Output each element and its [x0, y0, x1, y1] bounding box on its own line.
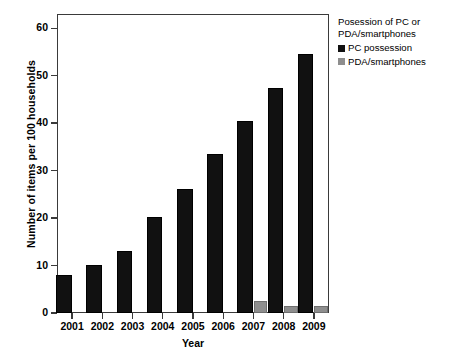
bar-pc-possession — [207, 154, 223, 313]
x-tick-mark — [313, 313, 314, 319]
y-tick-label: 40 — [16, 116, 48, 128]
bars-layer — [57, 14, 329, 313]
bar-pc-possession — [268, 88, 284, 313]
x-tick-mark — [71, 313, 72, 319]
legend-item: PDA/smartphones — [338, 56, 456, 68]
y-tick-label: 20 — [16, 211, 48, 223]
bar-pc-possession — [117, 251, 133, 313]
bar-pda-smartphones — [284, 306, 298, 313]
x-tick-mark — [192, 313, 193, 319]
x-tick-mark — [162, 313, 163, 319]
bar-pda-smartphones — [314, 306, 328, 313]
x-tick-mark — [132, 313, 133, 319]
legend: Posession of PC or PDA/smartphones PC po… — [338, 16, 456, 68]
bar-pda-smartphones — [254, 301, 268, 313]
bar-pc-possession — [177, 189, 193, 313]
legend-title: Posession of PC or PDA/smartphones — [338, 16, 456, 39]
legend-swatch-icon — [338, 45, 345, 52]
y-tick-label: 30 — [16, 164, 48, 176]
legend-item-label: PDA/smartphones — [348, 56, 426, 68]
bar-pc-possession — [86, 265, 102, 313]
x-tick-label: 2009 — [294, 320, 334, 332]
bar-pc-possession — [56, 275, 72, 313]
x-tick-mark — [102, 313, 103, 319]
legend-items: PC possessionPDA/smartphones — [338, 42, 456, 68]
legend-swatch-icon — [338, 58, 345, 65]
bar-pc-possession — [298, 54, 314, 313]
y-tick-label: 0 — [16, 306, 48, 318]
bar-pc-possession — [147, 217, 163, 313]
x-tick-mark — [223, 313, 224, 319]
legend-item: PC possession — [338, 42, 456, 54]
y-tick-label: 50 — [16, 69, 48, 81]
bar-chart-figure: Number of items per 100 households 01020… — [0, 0, 458, 362]
y-tick-label: 60 — [16, 21, 48, 33]
x-tick-mark — [253, 313, 254, 319]
bar-pc-possession — [237, 121, 253, 313]
x-tick-mark — [283, 313, 284, 319]
x-axis-title: Year — [57, 337, 329, 349]
y-tick-label: 10 — [16, 259, 48, 271]
y-axis-title: Number of items per 100 households — [25, 29, 37, 279]
legend-item-label: PC possession — [348, 42, 412, 54]
